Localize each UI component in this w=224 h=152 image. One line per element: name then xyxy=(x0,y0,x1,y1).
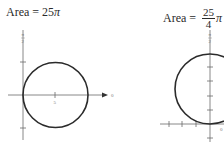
arrow-right-icon xyxy=(102,93,108,98)
circle-curve xyxy=(175,54,224,124)
x-tick-label: 5 xyxy=(54,100,57,105)
y-axis-label-den: 2 xyxy=(209,39,212,44)
polar-graph-left: 5 0 π 2 xyxy=(8,30,114,140)
y-axis-label-den: 2 xyxy=(22,39,25,44)
polar-axis-label: 0 xyxy=(111,93,114,98)
y-axis-label-num: π xyxy=(22,32,25,37)
y-axis-label-num: π xyxy=(209,32,212,37)
polar-graphs: 5 0 π 2 π 2 0 xyxy=(0,0,224,152)
polar-graph-right: π 2 0 xyxy=(160,30,224,142)
polar-axis-label: 0 xyxy=(220,127,223,132)
